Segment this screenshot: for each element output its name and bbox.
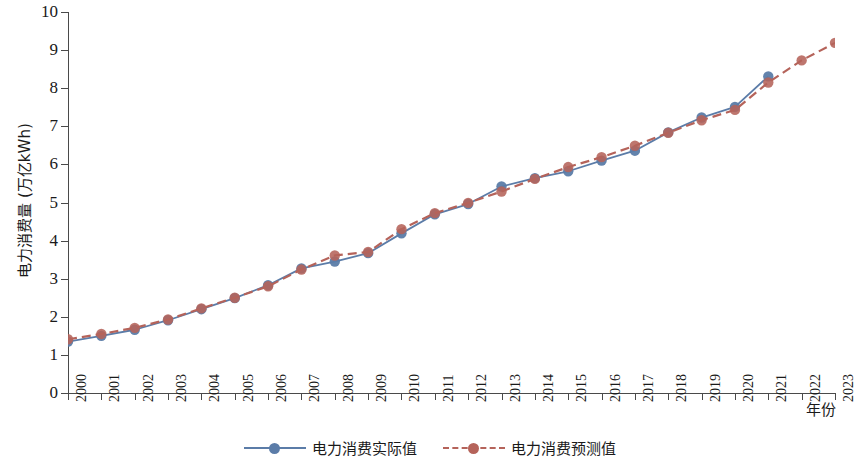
data-point-predicted — [730, 105, 740, 115]
data-point-predicted — [363, 247, 373, 257]
chart-legend: 电力消费实际值 电力消费预测值 — [0, 437, 859, 458]
data-point-predicted — [396, 224, 406, 234]
legend-swatch-predicted — [443, 441, 505, 455]
x-tick-mark — [468, 393, 469, 400]
x-tick-mark — [135, 393, 136, 400]
data-point-predicted — [596, 152, 606, 162]
plot-area — [68, 12, 835, 393]
legend-item-predicted: 电力消费预测值 — [443, 437, 616, 458]
y-tick-label: 5 — [0, 193, 70, 213]
y-tick-label: 2 — [0, 307, 70, 327]
x-tick-mark — [368, 393, 369, 400]
y-tick-label: 4 — [0, 231, 70, 251]
x-tick-mark — [602, 393, 603, 400]
y-tick-label: 6 — [0, 154, 70, 174]
y-tick-label: 0 — [0, 383, 70, 403]
x-tick-mark — [401, 393, 402, 400]
y-tick-label: 7 — [0, 116, 70, 136]
y-tick-label: 10 — [0, 2, 70, 22]
data-point-predicted — [96, 329, 106, 339]
data-point-predicted — [196, 303, 206, 313]
x-tick-mark — [335, 393, 336, 400]
data-point-predicted — [263, 281, 273, 291]
x-tick-mark — [735, 393, 736, 400]
data-point-predicted — [563, 162, 573, 172]
x-tick-mark — [802, 393, 803, 400]
y-tick-label: 1 — [0, 345, 70, 365]
x-tick-mark — [201, 393, 202, 400]
x-tick-mark — [535, 393, 536, 400]
data-point-predicted — [763, 77, 773, 87]
data-point-predicted — [430, 208, 440, 218]
legend-swatch-actual — [244, 441, 306, 455]
x-tick-mark — [668, 393, 669, 400]
data-point-predicted — [496, 186, 506, 196]
x-tick-mark — [635, 393, 636, 400]
x-tick-mark — [101, 393, 102, 400]
x-tick-mark — [301, 393, 302, 400]
legend-label-predicted: 电力消费预测值 — [511, 437, 616, 458]
x-tick-mark — [568, 393, 569, 400]
legend-item-actual: 电力消费实际值 — [244, 437, 417, 458]
series-line-predicted — [68, 43, 835, 339]
data-point-predicted — [330, 250, 340, 260]
x-tick-mark — [768, 393, 769, 400]
x-tick-mark — [268, 393, 269, 400]
data-point-predicted — [630, 141, 640, 151]
y-tick-label: 9 — [0, 40, 70, 60]
data-point-predicted — [696, 115, 706, 125]
data-point-predicted — [830, 38, 835, 48]
chart-figure: 电力消费量 (万亿kWh) 012345678910 2000200120022… — [0, 0, 859, 465]
data-point-predicted — [796, 55, 806, 65]
data-point-predicted — [530, 174, 540, 184]
data-point-predicted — [663, 128, 673, 138]
x-tick-mark — [168, 393, 169, 400]
x-axis-title: 年份 — [806, 398, 836, 419]
data-point-predicted — [463, 198, 473, 208]
series-line-actual — [68, 76, 768, 341]
data-point-predicted — [296, 264, 306, 274]
data-point-predicted — [163, 314, 173, 324]
y-tick-label: 3 — [0, 269, 70, 289]
x-tick-label: 2023 — [841, 374, 857, 402]
x-tick-mark — [435, 393, 436, 400]
data-point-predicted — [130, 323, 140, 333]
legend-label-actual: 电力消费实际值 — [312, 437, 417, 458]
y-tick-label: 8 — [0, 78, 70, 98]
x-tick-mark — [68, 393, 69, 400]
x-tick-mark — [702, 393, 703, 400]
x-tick-mark — [235, 393, 236, 400]
x-tick-mark — [502, 393, 503, 400]
data-point-predicted — [230, 293, 240, 303]
